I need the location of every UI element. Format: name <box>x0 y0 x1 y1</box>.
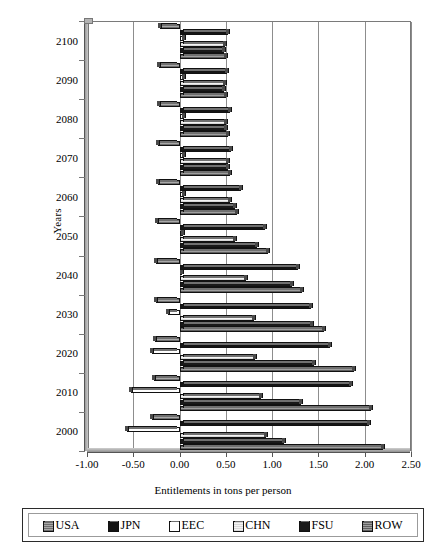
bar-eec-2010 <box>131 388 179 393</box>
bar-side-face <box>253 354 257 359</box>
bar-side-face <box>224 92 228 97</box>
legend-swatch-jpn-icon <box>108 521 119 532</box>
x-tick-mark <box>272 452 273 457</box>
bar-side-face <box>156 179 160 184</box>
bar-top-face <box>183 381 353 384</box>
bar-side-face <box>222 86 226 91</box>
bar-side-face <box>235 209 239 214</box>
grid-line <box>411 22 412 452</box>
bar-top-face <box>183 203 238 206</box>
bar-fsu-2100 <box>180 48 224 53</box>
bar-top-face <box>183 420 372 423</box>
chart-legend: USAJPNEECCHNFSUROW <box>22 508 424 542</box>
bar-eec-2080 <box>180 114 185 119</box>
bar-top-face <box>183 432 268 435</box>
bar-side-face <box>266 248 270 253</box>
bar-fsu-2020 <box>180 361 314 366</box>
bar-eec-2090 <box>180 75 185 80</box>
bar-eec-2100 <box>180 36 185 41</box>
x-axis-title: Entitlements in tons per person <box>0 484 446 496</box>
legend-item-jpn[interactable]: JPN <box>108 518 140 533</box>
bar-row-2100 <box>180 54 226 59</box>
bar-jpn-2030 <box>180 304 311 309</box>
bar-side-face <box>182 191 186 196</box>
bar-usa-2000 <box>152 415 180 420</box>
y-tick-label: 2000 <box>34 426 78 437</box>
bar-row-2040 <box>180 288 302 293</box>
bar-top-face <box>125 426 177 429</box>
y-tick-mark <box>79 177 85 178</box>
bar-side-face <box>381 444 385 449</box>
bar-top-face <box>183 92 228 95</box>
bar-side-face <box>224 119 228 124</box>
bar-side-face <box>150 414 154 419</box>
bar-side-face <box>157 101 161 106</box>
bar-top-face <box>183 275 249 278</box>
bar-top-face <box>183 47 226 50</box>
bar-top-face <box>183 281 295 284</box>
x-tick-mark <box>365 452 366 457</box>
bar-side-face <box>233 203 237 208</box>
legend-item-chn[interactable]: CHN <box>233 518 270 533</box>
bar-chn-2080 <box>180 120 226 125</box>
bar-top-face <box>183 146 234 149</box>
y-tick-label: 2050 <box>34 231 78 242</box>
bar-fsu-2090 <box>180 87 224 92</box>
x-tick-label: 0.00 <box>157 459 203 470</box>
bar-top-face <box>183 209 239 212</box>
bar-row-2050 <box>180 249 268 254</box>
bar-jpn-2100 <box>180 30 228 35</box>
bar-top-face <box>183 326 326 329</box>
x-tick-mark <box>226 452 227 457</box>
bar-side-face <box>228 107 232 112</box>
legend-item-row[interactable]: ROW <box>362 518 402 533</box>
bar-side-face <box>182 113 186 118</box>
y-tick-mark <box>79 373 85 374</box>
bar-usa-2070 <box>158 141 179 146</box>
legend-swatch-chn-icon <box>233 521 244 532</box>
bar-side-face <box>367 420 371 425</box>
bar-side-face <box>264 432 268 437</box>
legend-swatch-usa-icon <box>43 521 54 532</box>
bar-usa-2080 <box>159 102 179 107</box>
bar-jpn-2020 <box>180 343 330 348</box>
bar-top-face <box>183 197 233 200</box>
grid-line <box>365 22 366 452</box>
bar-top-face <box>183 399 303 402</box>
bar-side-face <box>125 426 129 431</box>
legend-item-fsu[interactable]: FSU <box>299 518 333 533</box>
bar-side-face <box>129 387 133 392</box>
bar-usa-2020 <box>155 337 180 342</box>
bar-top-face <box>150 348 177 351</box>
bar-eec-2050 <box>180 231 184 236</box>
bar-side-face <box>233 236 237 241</box>
bar-usa-2030 <box>156 298 179 303</box>
bar-side-face <box>182 152 186 157</box>
bar-eec-2030 <box>168 310 179 315</box>
bar-side-face <box>154 297 158 302</box>
bar-top-face <box>183 41 227 44</box>
bar-chn-2090 <box>180 81 225 86</box>
y-tick-mark <box>79 256 85 257</box>
bar-side-face <box>369 405 373 410</box>
y-tick-mark <box>79 295 85 296</box>
bar-side-face <box>312 360 316 365</box>
bar-side-face <box>299 399 303 404</box>
bar-top-face <box>183 68 229 71</box>
x-tick-label: 2.50 <box>388 459 434 470</box>
legend-items-container: USAJPNEECCHNFSUROW <box>28 513 418 537</box>
legend-item-usa[interactable]: USA <box>43 518 79 533</box>
bar-jpn-2060 <box>180 186 241 191</box>
y-tick-label: 2040 <box>34 270 78 281</box>
legend-item-eec[interactable]: EEC <box>169 518 204 533</box>
bar-top-face <box>183 438 287 441</box>
bar-fsu-2050 <box>180 243 258 248</box>
x-tick-label: 1.50 <box>295 459 341 470</box>
bar-side-face <box>322 326 326 331</box>
bar-usa-2050 <box>157 219 179 224</box>
bar-top-face <box>183 393 263 396</box>
x-tick-mark <box>411 452 412 457</box>
bar-row-2070 <box>180 171 230 176</box>
chart-plot-wrapper: Years 2000201020202030204020502060207020… <box>0 0 446 470</box>
bar-chn-2000 <box>180 433 266 438</box>
